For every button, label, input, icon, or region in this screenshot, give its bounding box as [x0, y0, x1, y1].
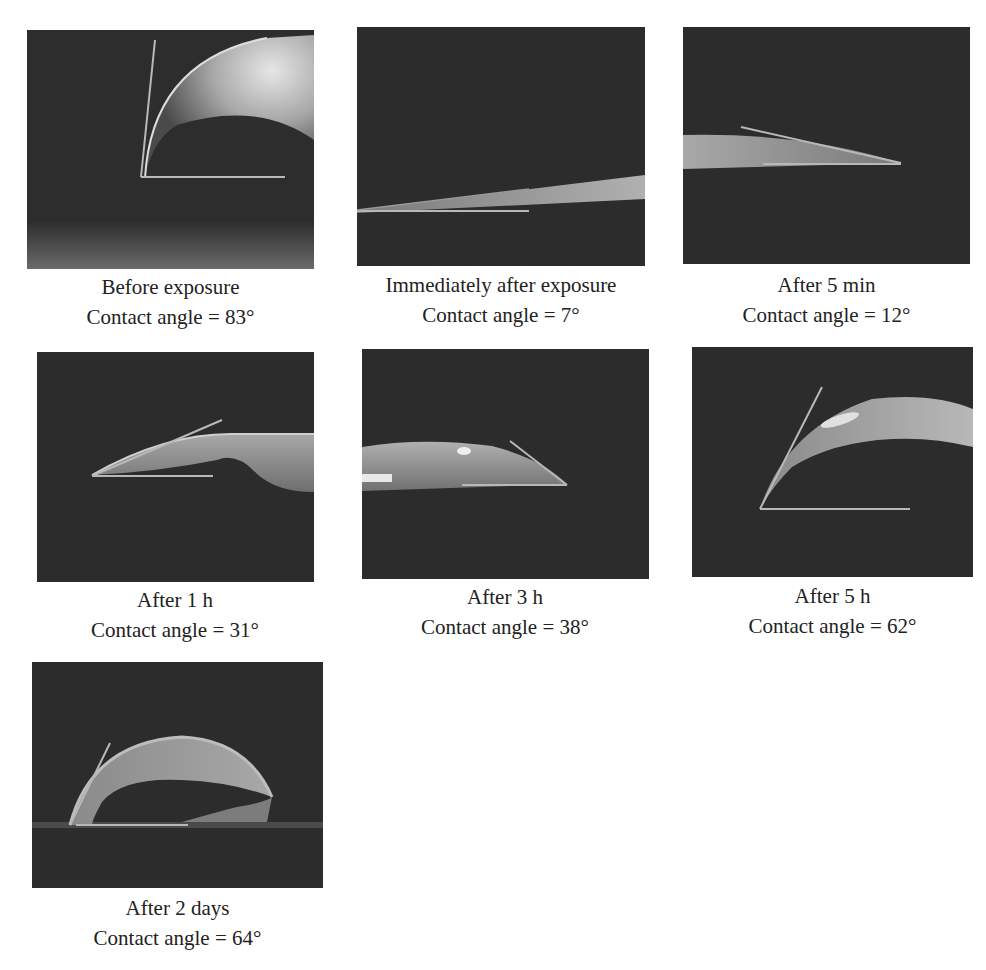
droplet-photo: [27, 30, 314, 269]
droplet-image: [357, 27, 645, 266]
caption: After 2 days Contact angle = 64°: [25, 893, 330, 953]
droplet-image: [692, 347, 973, 577]
condition-label: After 5 min: [683, 270, 970, 300]
caption: After 5 h Contact angle = 62°: [692, 581, 973, 641]
caption: Before exposure Contact angle = 83°: [27, 272, 314, 332]
droplet-image: [27, 30, 314, 269]
caption: After 5 min Contact angle = 12°: [683, 270, 970, 330]
droplet-image: [362, 349, 649, 579]
droplet-image: [683, 27, 970, 264]
contact-angle-label: Contact angle = 31°: [25, 615, 325, 645]
droplet-photo: [37, 352, 314, 582]
contact-angle-label: Contact angle = 7°: [341, 300, 661, 330]
droplet-photo: [32, 662, 323, 888]
caption: After 3 h Contact angle = 38°: [355, 582, 655, 642]
condition-label: After 5 h: [692, 581, 973, 611]
droplet-photo: [692, 347, 973, 577]
droplet-image: [32, 662, 323, 888]
condition-label: Immediately after exposure: [341, 270, 661, 300]
contact-angle-label: Contact angle = 12°: [683, 300, 970, 330]
contact-angle-label: Contact angle = 38°: [355, 612, 655, 642]
contact-angle-label: Contact angle = 64°: [25, 923, 330, 953]
droplet-photo: [362, 349, 649, 579]
droplet-photo: [683, 27, 970, 264]
condition-label: Before exposure: [27, 272, 314, 302]
caption: After 1 h Contact angle = 31°: [25, 585, 325, 645]
contact-angle-label: Contact angle = 62°: [692, 611, 973, 641]
droplet-photo: [357, 27, 645, 266]
contact-angle-label: Contact angle = 83°: [27, 302, 314, 332]
condition-label: After 2 days: [25, 893, 330, 923]
droplet-image: [37, 352, 314, 582]
caption: Immediately after exposure Contact angle…: [341, 270, 661, 330]
condition-label: After 3 h: [355, 582, 655, 612]
condition-label: After 1 h: [25, 585, 325, 615]
